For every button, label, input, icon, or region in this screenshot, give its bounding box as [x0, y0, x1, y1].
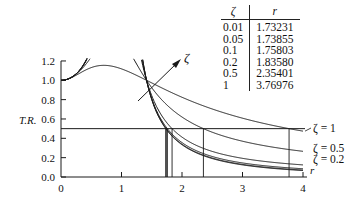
x-tick-label: 1 — [119, 182, 125, 194]
table-header-r: r — [250, 5, 300, 20]
y-tick-label: 1.2 — [41, 55, 55, 67]
x-tick-label: 3 — [240, 182, 246, 194]
table-cell-zeta: 1 — [221, 80, 250, 92]
x-axis-label: r — [310, 164, 315, 176]
label-zeta-1: ζ = 1 — [313, 122, 336, 135]
y-tick-label: 0.2 — [41, 152, 55, 164]
table-row: 0.01 1.73231 — [221, 20, 300, 34]
y-tick-label: 0.8 — [41, 94, 55, 106]
y-axis-label: T.R. — [19, 114, 37, 126]
y-tick-label: 0.0 — [41, 171, 55, 183]
table-cell-zeta: 0.01 — [221, 20, 250, 34]
table-row: 1 3.76976 — [221, 80, 300, 92]
table-cell-r: 1.75803 — [250, 45, 300, 57]
table-row: 0.5 2.35401 — [221, 68, 300, 80]
x-tick-label: 2 — [179, 182, 185, 194]
y-tick-label: 0.4 — [41, 132, 55, 144]
leader-zeta-1 — [305, 128, 311, 131]
y-tick-label: 0.6 — [41, 113, 55, 125]
x-tick-label: 0 — [58, 182, 64, 194]
markers — [61, 129, 305, 177]
zeta-r-table: ζ r 0.01 1.73231 0.05 1.73855 0.1 1.7580… — [221, 5, 300, 91]
table-cell-r: 3.76976 — [250, 80, 300, 92]
table-header-zeta: ζ — [221, 5, 250, 20]
x-tick-label: 4 — [300, 182, 306, 194]
y-tick-label: 1.0 — [41, 74, 55, 86]
table-cell-r: 2.35401 — [250, 68, 300, 80]
table-cell-zeta: 0.1 — [221, 45, 250, 57]
zeta-arrow-label: ζ — [184, 50, 190, 65]
table-row: 0.1 1.75803 — [221, 45, 300, 57]
table-cell-zeta: 0.5 — [221, 68, 250, 80]
transmissibility-chart: 0.00.20.40.60.81.01.201234T.R.r ζζ = 1ζ … — [0, 0, 354, 203]
table-cell-r: 1.73231 — [250, 20, 300, 34]
label-zeta-0_2: ζ = 0.2 — [313, 153, 345, 166]
